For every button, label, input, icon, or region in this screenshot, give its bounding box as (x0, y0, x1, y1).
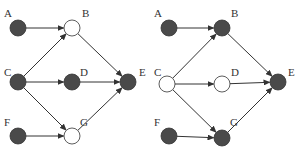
node-label-c: C (154, 66, 161, 78)
node-label-f: F (4, 116, 10, 128)
node-g (214, 130, 230, 146)
node-label-g: G (80, 116, 88, 128)
edge-f-to-g (177, 136, 214, 137)
node-b (64, 20, 80, 36)
node-a (161, 20, 177, 36)
node-g (64, 128, 80, 144)
node-label-f: F (154, 116, 160, 128)
node-c (159, 76, 175, 92)
node-label-d: D (231, 66, 239, 78)
edge-c-to-g (173, 90, 216, 132)
edge-c-to-b (173, 34, 216, 78)
node-label-d: D (80, 66, 88, 78)
edge-c-to-b (24, 34, 66, 76)
node-c (10, 74, 26, 90)
node-label-a: A (4, 7, 12, 19)
node-a (10, 20, 26, 36)
node-e (270, 74, 286, 90)
edge-d-to-e (230, 82, 270, 83)
node-label-c: C (4, 66, 11, 78)
node-f (10, 128, 26, 144)
node-e (120, 74, 136, 90)
node-label-e: E (288, 66, 295, 78)
right-graph: ABCDEFG (154, 7, 295, 146)
node-b (214, 20, 230, 36)
node-d (64, 74, 80, 90)
edge-c-to-g (24, 88, 66, 130)
left-graph: ABCDEFG (4, 7, 146, 144)
bayesian-network-diagram: ABCDEFGABCDEFG (0, 0, 299, 155)
node-label-b: B (231, 7, 238, 19)
node-label-a: A (154, 7, 162, 19)
node-label-b: B (82, 7, 89, 19)
node-d (214, 76, 230, 92)
node-label-e: E (139, 66, 146, 78)
node-f (161, 128, 177, 144)
node-label-g: G (230, 116, 238, 128)
